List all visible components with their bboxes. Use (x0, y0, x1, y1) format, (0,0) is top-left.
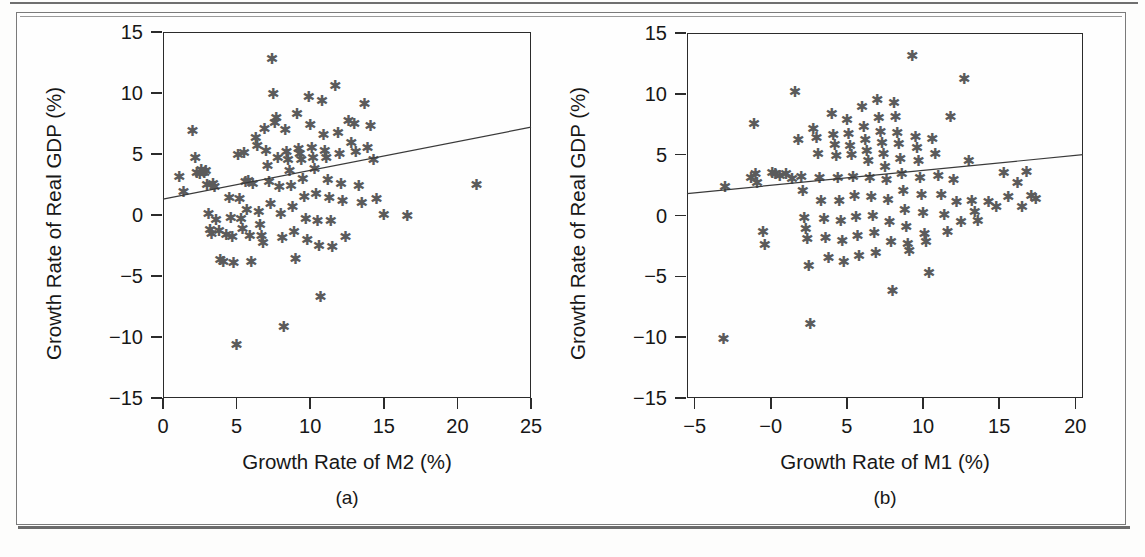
x-axis-tick-label: 10 (912, 415, 934, 438)
x-axis-tick-label: 0 (157, 415, 168, 438)
y-axis-tick-label: 0 (53, 204, 143, 227)
y-axis-tick (675, 93, 686, 95)
y-axis-label-b: Growth Rate of Real GDP (%) (566, 87, 590, 360)
x-axis-tick-label: 15 (988, 415, 1010, 438)
x-axis-label-b: Growth Rate of M1 (%) (780, 450, 990, 474)
y-axis-tick (151, 214, 162, 216)
x-axis-tick (1075, 398, 1077, 409)
y-axis-tick-label: −15 (53, 387, 143, 410)
x-axis-tick (922, 398, 924, 409)
x-axis-tick (383, 398, 385, 409)
x-axis-tick-label: 20 (1064, 415, 1086, 438)
x-axis-label-a: Growth Rate of M2 (%) (242, 450, 452, 474)
y-axis-tick (675, 276, 686, 278)
y-axis-tick (151, 397, 162, 399)
x-axis-tick-label: 5 (231, 415, 242, 438)
y-axis-tick (151, 153, 162, 155)
panel-caption-a: (a) (335, 487, 358, 509)
y-axis-tick (675, 397, 686, 399)
y-axis-tick (151, 92, 162, 94)
chart-panel-b: ✱✱✱✱✱✱✱✱✱✱✱✱✱✱✱✱✱✱✱✱✱✱✱✱✱✱✱✱✱✱✱✱✱✱✱✱✱✱✱✱… (524, 0, 1145, 557)
y-axis-tick (675, 32, 686, 34)
y-axis-tick-label: 15 (577, 22, 667, 45)
y-axis-tick (151, 31, 162, 33)
y-axis-tick-label: 10 (53, 82, 143, 105)
y-axis-tick-label: −10 (53, 326, 143, 349)
y-axis-tick-label: 5 (53, 143, 143, 166)
x-axis-tick-label: −5 (683, 415, 706, 438)
x-axis-tick (846, 398, 848, 409)
x-axis-tick (457, 398, 459, 409)
y-axis-tick-label: 5 (577, 143, 667, 166)
y-axis-tick (675, 215, 686, 217)
x-axis-tick (309, 398, 311, 409)
y-axis-tick (151, 336, 162, 338)
y-axis-tick (675, 154, 686, 156)
y-axis-tick-label: −15 (577, 387, 667, 410)
x-axis-tick (694, 398, 696, 409)
y-axis-tick (151, 275, 162, 277)
y-axis-tick-label: −5 (577, 265, 667, 288)
x-axis-tick (236, 398, 238, 409)
x-axis-tick (770, 398, 772, 409)
x-axis-tick-label: 5 (841, 415, 852, 438)
chart-panel-a: ✱✱✱✱✱✱✱✱✱✱✱✱✱✱✱✱✱✱✱✱✱✱✱✱✱✱✱✱✱✱✱✱✱✱✱✱✱✱✱✱… (0, 0, 572, 557)
x-axis-tick (162, 398, 164, 409)
panel-caption-b: (b) (873, 487, 896, 509)
x-axis-tick-label: 20 (446, 415, 468, 438)
x-axis-tick-label: −0 (759, 415, 782, 438)
x-axis-tick-label: 15 (373, 415, 395, 438)
figure-page: ✱✱✱✱✱✱✱✱✱✱✱✱✱✱✱✱✱✱✱✱✱✱✱✱✱✱✱✱✱✱✱✱✱✱✱✱✱✱✱✱… (0, 0, 1145, 557)
y-axis-label-a: Growth Rate of Real GDP (%) (42, 87, 66, 360)
y-axis-tick (675, 336, 686, 338)
y-axis-tick-label: 10 (577, 82, 667, 105)
y-axis-tick-label: 15 (53, 21, 143, 44)
y-axis-tick-label: −5 (53, 265, 143, 288)
y-axis-tick-label: 0 (577, 204, 667, 227)
y-axis-tick-label: −10 (577, 326, 667, 349)
x-axis-tick-label: 10 (299, 415, 321, 438)
x-axis-tick (998, 398, 1000, 409)
